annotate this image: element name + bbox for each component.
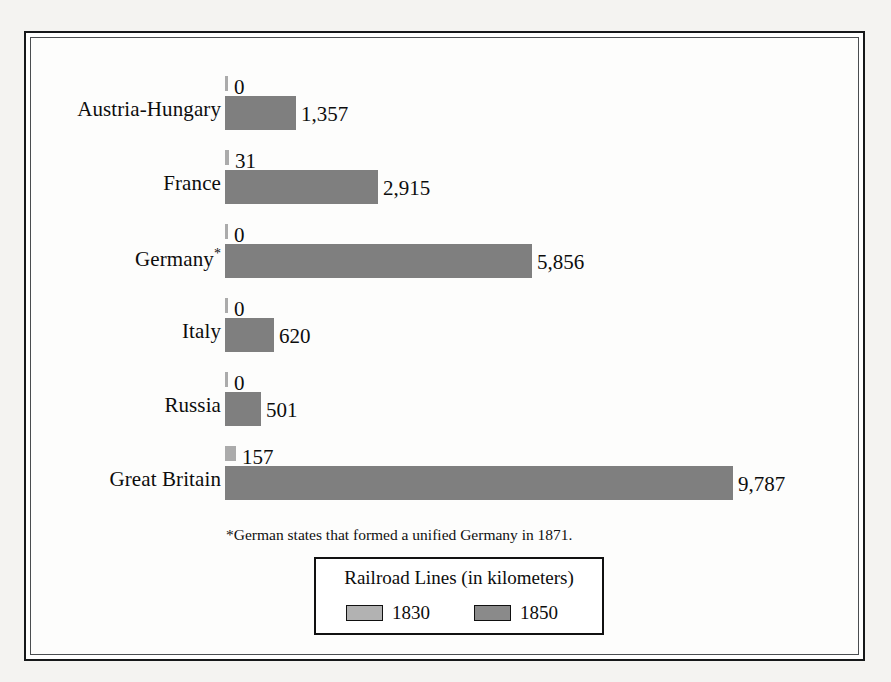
legend-swatch-1850-icon: [474, 605, 511, 621]
legend-entry-1830: 1830: [346, 603, 430, 622]
bar-value-1830-russia: 0: [234, 373, 245, 394]
bar-1850-italy: [225, 318, 274, 352]
bar-1850-france: [225, 170, 378, 204]
category-label-text: Austria-Hungary: [77, 97, 221, 121]
bar-1830-france: [225, 150, 229, 165]
bar-1830-italy: [225, 298, 228, 313]
bar-value-1850-france: 2,915: [383, 178, 430, 199]
legend-swatch-1830-icon: [346, 605, 383, 621]
category-label-russia: Russia: [164, 395, 221, 416]
chart-footnote: *German states that formed a unified Ger…: [226, 527, 573, 543]
category-label-text: Italy: [182, 319, 221, 343]
bar-1850-austria-hungary: [225, 96, 296, 130]
bar-value-1850-italy: 620: [279, 326, 311, 347]
bar-1850-russia: [225, 392, 261, 426]
bar-value-1830-france: 31: [235, 151, 256, 172]
bar-value-1830-italy: 0: [234, 299, 245, 320]
category-label-germany: Germany*: [135, 247, 221, 270]
legend-label-1850: 1850: [520, 603, 558, 622]
category-label-france: France: [163, 173, 221, 194]
category-label-text: France: [163, 171, 221, 195]
bar-value-1850-austria-hungary: 1,357: [301, 104, 348, 125]
bar-1830-great-britain: [225, 446, 236, 461]
bar-value-1850-germany: 5,856: [537, 252, 584, 273]
category-label-austria-hungary: Austria-Hungary: [77, 99, 221, 120]
bar-1850-great-britain: [225, 466, 733, 500]
category-label-italy: Italy: [182, 321, 221, 342]
bar-1830-russia: [225, 372, 228, 387]
bar-value-1830-great-britain: 157: [242, 447, 274, 468]
legend-label-1830: 1830: [392, 603, 430, 622]
category-label-text: Russia: [164, 393, 221, 417]
bar-1830-austria-hungary: [225, 76, 228, 91]
bar-1830-germany: [225, 224, 228, 239]
bar-1850-germany: [225, 244, 532, 278]
legend-entry-1850: 1850: [474, 603, 558, 622]
category-label-text: Great Britain: [109, 467, 221, 491]
chart-legend: Railroad Lines (in kilometers) 1830 1850: [314, 557, 604, 635]
figure-frame: Austria-Hungary 0 1,357 France 31 2,915 …: [24, 31, 865, 661]
bar-value-1850-great-britain: 9,787: [738, 474, 785, 495]
category-label-text: Germany: [135, 247, 214, 271]
bar-value-1830-germany: 0: [234, 225, 245, 246]
bar-value-1830-austria-hungary: 0: [234, 77, 245, 98]
bar-value-1850-russia: 501: [266, 400, 298, 421]
category-label-great-britain: Great Britain: [109, 469, 221, 490]
footnote-marker-asterisk: *: [214, 246, 221, 261]
legend-title: Railroad Lines (in kilometers): [316, 568, 602, 587]
bar-chart-plot-area: Austria-Hungary 0 1,357 France 31 2,915 …: [26, 33, 867, 663]
